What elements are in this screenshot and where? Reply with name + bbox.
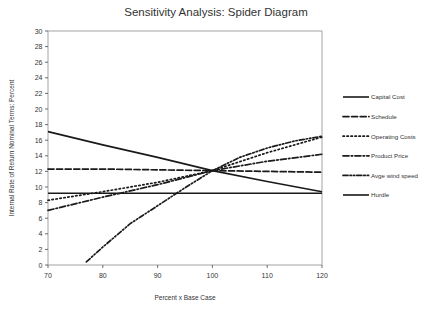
legend-label-operating-costs: Operating Costs [371,133,416,140]
legend-label-avge-wind-speed: Avge wind speed [371,172,419,179]
y-tick-label: 22 [35,90,43,97]
x-tick-label: 120 [316,272,328,279]
legend-label-product-price: Product Price [371,152,409,159]
y-axis-ticks: 024681012141618202224262830 [35,28,48,269]
series-layer [48,132,322,262]
chart-legend: Capital CostScheduleOperating CostsProdu… [343,93,419,198]
series-line-avge-wind-speed [86,136,322,262]
y-tick-label: 26 [35,59,43,66]
y-tick-label: 4 [39,230,43,237]
x-tick-label: 110 [262,272,273,279]
chart-title: Sensitivity Analysis: Spider Diagram [124,6,307,18]
x-tick-label: 100 [207,272,219,279]
y-tick-label: 24 [35,74,43,81]
series-line-schedule [48,169,322,172]
x-tick-label: 70 [44,272,52,279]
legend-label-schedule: Schedule [371,113,397,120]
y-tick-label: 30 [35,28,43,35]
y-tick-label: 14 [35,152,43,159]
plot-frame [48,31,322,265]
y-tick-label: 8 [39,199,43,206]
y-axis-title: Internal Rate of Return Nominal Terms: P… [8,79,15,216]
series-line-product-price [48,154,322,210]
y-tick-label: 0 [39,262,43,269]
y-tick-label: 2 [39,246,43,253]
spider-diagram-chart: Sensitivity Analysis: Spider Diagram Int… [0,0,432,319]
y-tick-label: 20 [35,106,43,113]
legend-label-capital-cost: Capital Cost [371,93,405,100]
x-tick-label: 90 [154,272,162,279]
y-tick-label: 10 [35,184,43,191]
y-tick-label: 16 [35,137,43,144]
x-axis-title: Percent x Base Case [154,294,215,301]
x-axis-ticks: 708090100110120 [44,265,328,279]
y-tick-label: 28 [35,43,43,50]
y-tick-label: 6 [39,215,43,222]
y-tick-label: 12 [35,168,43,175]
legend-label-hurdle: Hurdle [371,191,390,198]
y-tick-label: 18 [35,121,43,128]
x-tick-label: 80 [99,272,107,279]
series-line-capital-cost [48,132,322,192]
